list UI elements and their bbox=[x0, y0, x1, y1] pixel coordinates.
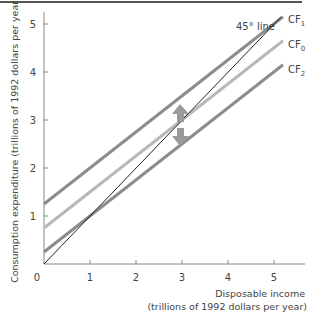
cf0-label: CF0 bbox=[288, 39, 305, 53]
y-axis-title: Consumption expenditure (trillions of 19… bbox=[9, 0, 20, 283]
shift-up-arrow-icon bbox=[172, 104, 189, 122]
x-axis-title: Disposable income bbox=[215, 288, 305, 299]
y-tick-1: 1 bbox=[30, 211, 36, 222]
forty-five-degree-line bbox=[44, 17, 281, 264]
y-tick-4: 4 bbox=[30, 67, 36, 78]
y-tick-5: 5 bbox=[30, 19, 36, 30]
y-tick-3: 3 bbox=[30, 115, 36, 126]
x-tick-3: 3 bbox=[179, 272, 185, 283]
shift-down-arrow-icon bbox=[172, 128, 189, 146]
x-tick-2: 2 bbox=[133, 272, 139, 283]
cf2-line bbox=[44, 65, 283, 252]
y-ticks: 1 2 3 4 5 bbox=[30, 19, 48, 222]
x-tick-5: 5 bbox=[271, 272, 277, 283]
x-tick-4: 4 bbox=[225, 272, 231, 283]
consumption-function-chart: 1 2 3 4 5 0 1 2 3 4 5 Consumption expend… bbox=[0, 0, 319, 318]
x-axis-units: (trillions of 1992 dollars per year) bbox=[147, 301, 307, 312]
y-tick-2: 2 bbox=[30, 163, 36, 174]
origin-label: 0 bbox=[34, 272, 40, 283]
cf1-line bbox=[44, 17, 283, 204]
cf1-label: CF1 bbox=[288, 14, 305, 28]
cf0-line bbox=[44, 41, 283, 228]
forty-five-line-label: 45° line bbox=[236, 21, 275, 32]
cf2-label: CF2 bbox=[288, 64, 305, 78]
x-ticks: 0 1 2 3 4 5 bbox=[34, 260, 277, 283]
x-tick-1: 1 bbox=[87, 272, 93, 283]
